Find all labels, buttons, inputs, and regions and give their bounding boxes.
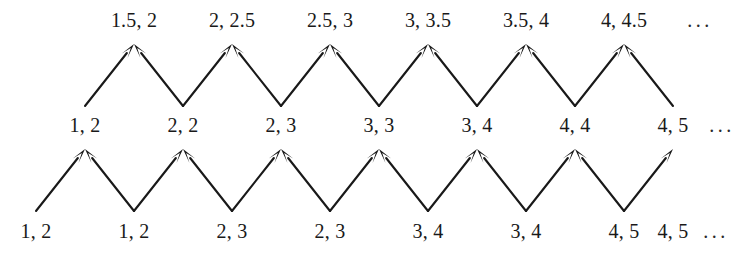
row-ellipsis: ...	[709, 115, 735, 135]
arrow-head	[183, 149, 195, 163]
arrow-upper-arrow-band	[428, 44, 477, 106]
arrow-shaft	[435, 53, 477, 106]
arrow-shaft	[386, 158, 428, 211]
arrow-shaft	[288, 158, 330, 211]
arrow-shaft	[582, 158, 624, 211]
arrow-lower-arrow-band	[134, 149, 183, 211]
arrow-head	[220, 44, 232, 58]
arrow-shaft	[477, 53, 519, 106]
arrow-head	[122, 44, 134, 58]
arrow-upper-arrow-band	[232, 44, 281, 106]
node-label: 2, 3	[266, 115, 297, 135]
arrow-head	[330, 44, 342, 58]
arrow-upper-arrow-band	[379, 44, 428, 106]
arrow-upper-arrow-band	[526, 44, 575, 106]
arrow-head	[563, 149, 575, 163]
arrow-head	[575, 149, 587, 163]
arrow-shaft	[484, 158, 526, 211]
arrow-shaft	[330, 158, 372, 211]
arrow-head	[477, 149, 489, 163]
arrow-upper-arrow-band	[134, 44, 183, 106]
arrow-shaft	[624, 158, 666, 211]
node-label: 2, 2	[168, 115, 199, 135]
row-ellipsis: ...	[703, 221, 729, 241]
node-label: 2.5, 3	[307, 10, 353, 30]
node-label: 4, 5	[609, 221, 640, 241]
node-label: 4, 5	[658, 221, 689, 241]
arrow-upper-arrow-band	[330, 44, 379, 106]
arrow-lower-arrow-band	[575, 149, 624, 211]
arrow-head	[416, 44, 428, 58]
arrow-upper-arrow-band	[183, 44, 232, 106]
node-label: 4, 5	[658, 115, 689, 135]
arrow-head	[465, 149, 477, 163]
arrow-lower-arrow-band	[36, 149, 85, 211]
arrow-head	[281, 149, 293, 163]
arrow-lower-arrow-band	[477, 149, 526, 211]
node-label: 3, 3.5	[405, 10, 451, 30]
node-label: 1, 2	[119, 221, 150, 241]
arrow-head	[318, 44, 330, 58]
arrow-shaft	[134, 158, 176, 211]
node-label: 2, 2.5	[209, 10, 255, 30]
arrow-lower-arrow-band	[428, 149, 477, 211]
arrow-head	[379, 149, 391, 163]
arrow-head	[526, 44, 538, 58]
arrow-upper-arrow-band	[624, 44, 673, 106]
arrow-shaft	[428, 158, 470, 211]
arrow-head	[269, 149, 281, 163]
arrow-upper-arrow-band	[575, 44, 624, 106]
arrow-shaft	[85, 53, 127, 106]
arrow-head	[612, 44, 624, 58]
arrow-upper-arrow-band	[281, 44, 330, 106]
arrow-lower-arrow-band	[183, 149, 232, 211]
node-label: 3.5, 4	[503, 10, 549, 30]
arrow-upper-arrow-band	[477, 44, 526, 106]
arrow-head	[367, 149, 379, 163]
node-label: 3, 4	[462, 115, 493, 135]
arrow-shaft	[379, 53, 421, 106]
node-label: 2, 3	[315, 221, 346, 241]
arrow-lower-arrow-band	[624, 149, 673, 211]
arrow-lower-arrow-band	[379, 149, 428, 211]
arrow-head	[85, 149, 97, 163]
arrow-head	[661, 149, 673, 163]
arrow-lower-arrow-band	[281, 149, 330, 211]
arrow-shaft	[36, 158, 78, 211]
arrow-shaft	[92, 158, 134, 211]
node-label: 3, 3	[364, 115, 395, 135]
arrow-lower-arrow-band	[526, 149, 575, 211]
lattice-diagram: 1.5, 22, 2.52.5, 33, 3.53.5, 44, 4.5...1…	[0, 0, 735, 259]
arrow-shaft	[575, 53, 617, 106]
arrow-head	[428, 44, 440, 58]
arrow-shaft	[526, 158, 568, 211]
arrow-shaft	[190, 158, 232, 211]
arrow-head	[624, 44, 636, 58]
node-label: 1.5, 2	[111, 10, 157, 30]
arrow-lower-arrow-band	[85, 149, 134, 211]
node-label: 1, 2	[21, 221, 52, 241]
node-label: 4, 4	[560, 115, 591, 135]
node-label: 1, 2	[70, 115, 101, 135]
arrow-shaft	[533, 53, 575, 106]
arrow-head	[514, 44, 526, 58]
arrow-shaft	[232, 158, 274, 211]
arrow-shaft	[631, 53, 673, 106]
node-label: 4, 4.5	[601, 10, 647, 30]
arrow-lower-arrow-band	[232, 149, 281, 211]
arrow-shaft	[239, 53, 281, 106]
arrow-head	[73, 149, 85, 163]
node-label: 3, 4	[511, 221, 542, 241]
arrow-shaft	[183, 53, 225, 106]
arrow-shaft	[281, 53, 323, 106]
arrow-shaft	[141, 53, 183, 106]
node-label: 3, 4	[413, 221, 444, 241]
node-label: 2, 3	[217, 221, 248, 241]
arrow-shaft	[337, 53, 379, 106]
arrow-head	[232, 44, 244, 58]
arrow-head	[171, 149, 183, 163]
arrow-lower-arrow-band	[330, 149, 379, 211]
arrow-upper-arrow-band	[85, 44, 134, 106]
row-ellipsis: ...	[687, 10, 713, 30]
arrow-head	[134, 44, 146, 58]
